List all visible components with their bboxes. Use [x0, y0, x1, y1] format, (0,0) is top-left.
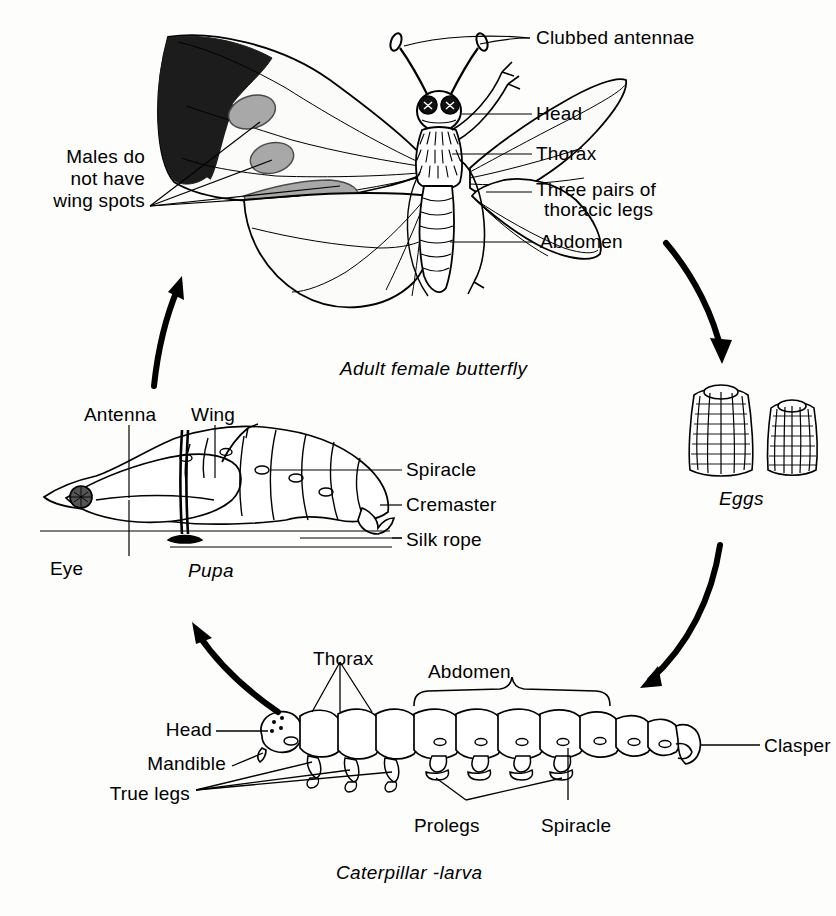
label-eye-pupa: Eye	[50, 558, 83, 579]
label-antenna-pupa: Antenna	[84, 404, 156, 425]
label-thorax-larva: Thorax	[313, 648, 373, 669]
label-clasper-larva: Clasper	[764, 735, 831, 756]
label-spiracle-pupa: Spiracle	[406, 459, 476, 480]
arrow-eggs-to-larva	[640, 545, 720, 688]
label-spiracle-larva: Spiracle	[541, 815, 611, 836]
label-cremaster-pupa: Cremaster	[406, 494, 496, 515]
adult-butterfly-illustration	[158, 32, 626, 308]
label-males-no-wing-spots-line3: wing spots	[0, 190, 145, 211]
label-wing-pupa: Wing	[191, 404, 235, 425]
label-abdomen-larva: Abdomen	[428, 661, 511, 682]
caterpillar-illustration	[258, 709, 701, 792]
diagram-canvas	[0, 0, 836, 916]
label-silk-rope-pupa: Silk rope	[406, 529, 482, 550]
label-males-no-wing-spots-line1: Males do	[0, 146, 145, 167]
caption-adult-female-butterfly: Adult female butterfly	[340, 358, 527, 380]
arrow-pupa-to-adult	[154, 276, 184, 386]
arrow-larva-to-pupa	[192, 622, 278, 712]
label-mandible-larva: Mandible	[30, 753, 226, 774]
pupa-illustration	[40, 424, 394, 547]
label-prolegs-larva: Prolegs	[414, 815, 480, 836]
label-head-larva: Head	[60, 719, 212, 740]
label-three-pairs-thoracic-legs-line2: thoracic legs	[544, 199, 653, 220]
label-head-adult: Head	[536, 103, 582, 124]
label-males-no-wing-spots-line2: not have	[0, 168, 145, 189]
eggs-illustration	[689, 385, 817, 476]
caption-caterpillar-larva: Caterpillar -larva	[336, 862, 483, 884]
arrow-adult-to-eggs	[666, 243, 732, 364]
butterfly-life-cycle-diagram: Clubbed antennae Head Thorax Three pairs…	[0, 0, 836, 916]
label-true-legs-larva: True legs	[24, 783, 190, 804]
label-three-pairs-thoracic-legs-line1: Three pairs of	[536, 179, 656, 200]
label-thorax-adult: Thorax	[536, 143, 596, 164]
caption-pupa: Pupa	[188, 560, 234, 582]
caption-eggs: Eggs	[719, 488, 764, 510]
label-clubbed-antennae: Clubbed antennae	[536, 27, 695, 48]
label-abdomen-adult: Abdomen	[540, 231, 623, 252]
